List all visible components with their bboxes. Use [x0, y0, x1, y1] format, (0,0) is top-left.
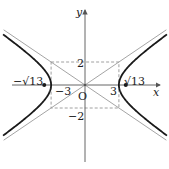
x-axis-label: x [153, 86, 160, 99]
tick-label-neg-vertex: −3 [55, 85, 71, 98]
tick-label-pos-vertex: 3 [110, 85, 117, 98]
y-axis-label: y [75, 6, 83, 19]
tick-label-neg-b: −2 [68, 110, 84, 123]
hyperbola-diagram: y x O 3 −3 2 −2 √13 −√13 [0, 0, 169, 169]
focus-label-pos: √13 [124, 75, 145, 88]
focus-label-neg: −√13 [13, 75, 43, 88]
origin-label: O [78, 90, 87, 103]
tick-label-pos-b: 2 [77, 57, 84, 70]
origin-point [84, 84, 86, 86]
